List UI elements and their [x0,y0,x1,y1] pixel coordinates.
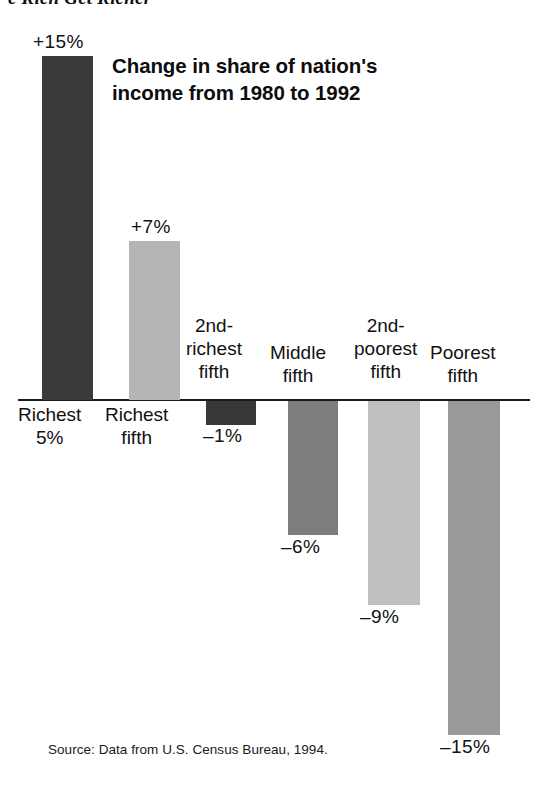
bar-chart-plot: Change in share of nation's income from … [0,0,546,760]
bar-4 [288,401,338,535]
bar-category-label-6: Poorestfifth [430,341,495,387]
bar-value-label-3: –1% [203,425,242,447]
bar-category-label-2-line-2: fifth [105,426,168,449]
chart-title: Change in share of nation's income from … [112,52,442,107]
bar-category-label-3-line-1: 2nd- [186,314,242,337]
bar-5 [368,401,420,605]
bar-3 [206,401,256,425]
bar-category-label-4-line-2: fifth [270,364,326,387]
chart-title-line-1: Change in share of nation's [112,52,442,79]
bar-category-label-5: 2nd-poorestfifth [354,314,417,384]
chart-title-line-2: income from 1980 to 1992 [112,79,442,106]
bar-value-label-6: –15% [440,736,490,758]
bar-category-label-2-line-1: Richest [105,403,168,426]
bar-category-label-5-line-1: 2nd- [354,314,417,337]
bar-category-label-6-line-2: fifth [430,364,495,387]
bar-value-label-2: +7% [131,216,171,238]
bar-category-label-4-line-1: Middle [270,341,326,364]
bar-value-label-1: +15% [33,31,84,53]
bar-category-label-1-line-2: 5% [18,426,81,449]
bar-2 [129,241,180,400]
bar-category-label-3-line-2: richest [186,337,242,360]
bar-6 [448,401,500,735]
source-note: Source: Data from U.S. Census Bureau, 19… [48,742,328,757]
bar-1 [42,56,93,400]
bar-category-label-2: Richestfifth [105,403,168,449]
bar-category-label-3-line-3: fifth [186,360,242,383]
bar-category-label-4: Middlefifth [270,341,326,387]
bar-category-label-6-line-1: Poorest [430,341,495,364]
bar-value-label-5: –9% [360,606,399,628]
bar-category-label-3: 2nd-richestfifth [186,314,242,384]
bar-category-label-5-line-3: fifth [354,360,417,383]
bar-category-label-1: Richest5% [18,403,81,449]
bar-category-label-5-line-2: poorest [354,337,417,360]
bar-value-label-4: –6% [281,536,320,558]
bar-category-label-1-line-1: Richest [18,403,81,426]
